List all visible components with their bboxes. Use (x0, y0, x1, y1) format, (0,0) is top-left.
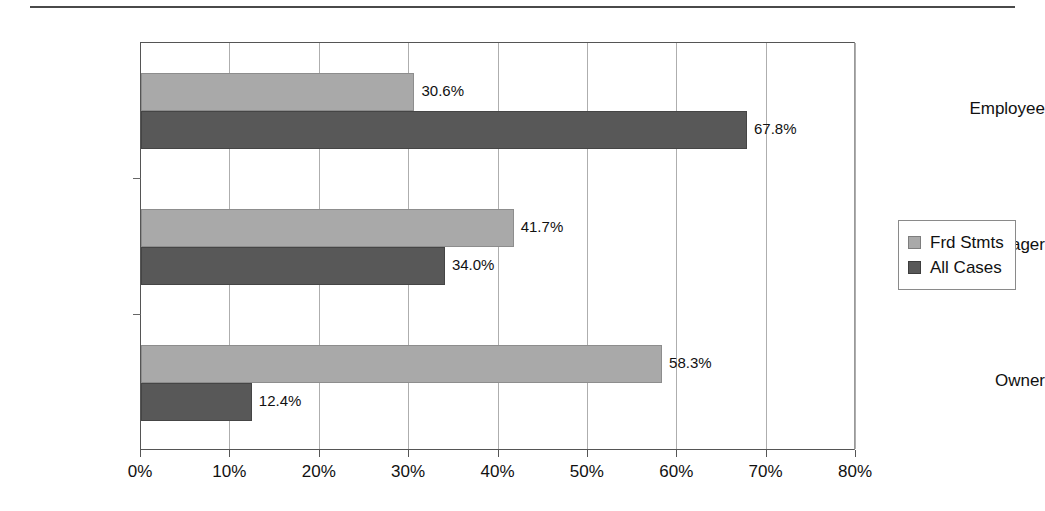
plot-area (140, 42, 855, 450)
legend-swatch-icon-all-cases (908, 261, 921, 274)
x-axis-tick (766, 450, 767, 457)
x-axis-tick-label: 0% (128, 462, 153, 482)
x-axis-tick (587, 450, 588, 457)
gridline (855, 43, 856, 449)
bar-owner-all-cases (141, 383, 252, 421)
y-axis-label-owner: Owner (917, 371, 1045, 391)
bar-value-label: 30.6% (421, 83, 464, 98)
bar-value-label: 34.0% (452, 257, 495, 272)
x-axis-tick-label: 20% (302, 462, 336, 482)
chart-legend: Frd Stmts All Cases (898, 220, 1016, 290)
gridline (587, 43, 588, 449)
bar-value-label: 58.3% (669, 355, 712, 370)
bar-owner-frd-stmts (141, 345, 662, 383)
x-axis-tick-label: 50% (570, 462, 604, 482)
x-axis-tick-label: 70% (749, 462, 783, 482)
x-axis-tick-label: 80% (838, 462, 872, 482)
x-axis-tick (855, 450, 856, 457)
x-axis-tick-label: 30% (391, 462, 425, 482)
bar-value-label: 41.7% (521, 219, 564, 234)
y-axis-tick (133, 178, 141, 179)
bar-manager-all-cases (141, 247, 445, 285)
bar-value-label: 12.4% (259, 393, 302, 408)
bar-manager-frd-stmts (141, 209, 514, 247)
bar-value-label: 67.8% (754, 121, 797, 136)
legend-item-all-cases: All Cases (908, 255, 1004, 280)
gridline (676, 43, 677, 449)
grouped-bar-chart: Employee Manager Owner Frd Stmts All Cas… (0, 0, 1045, 511)
x-axis-tick-label: 10% (212, 462, 246, 482)
legend-label-all-cases: All Cases (930, 258, 1002, 278)
x-axis-tick (498, 450, 499, 457)
x-axis-tick-label: 60% (659, 462, 693, 482)
bar-employee-frd-stmts (141, 73, 414, 111)
y-axis-tick (133, 314, 141, 315)
legend-item-frd-stmts: Frd Stmts (908, 230, 1004, 255)
x-axis-tick (319, 450, 320, 457)
x-axis-tick (229, 450, 230, 457)
x-axis-tick-label: 40% (480, 462, 514, 482)
x-axis-tick (408, 450, 409, 457)
y-axis-label-employee: Employee (917, 99, 1045, 119)
gridline (766, 43, 767, 449)
x-axis-tick (676, 450, 677, 457)
bar-employee-all-cases (141, 111, 747, 149)
legend-label-frd-stmts: Frd Stmts (930, 233, 1004, 253)
x-axis-tick (140, 450, 141, 457)
legend-swatch-icon-frd-stmts (908, 236, 921, 249)
